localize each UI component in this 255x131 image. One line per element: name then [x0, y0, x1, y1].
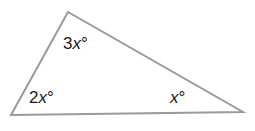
angle-label-bottom-left: 2x°: [29, 88, 54, 107]
triangle-diagram: 3x° 2x° x°: [0, 0, 255, 131]
angle-label-top: 3x°: [63, 34, 88, 53]
angle-label-bottom-right: x°: [169, 88, 185, 107]
